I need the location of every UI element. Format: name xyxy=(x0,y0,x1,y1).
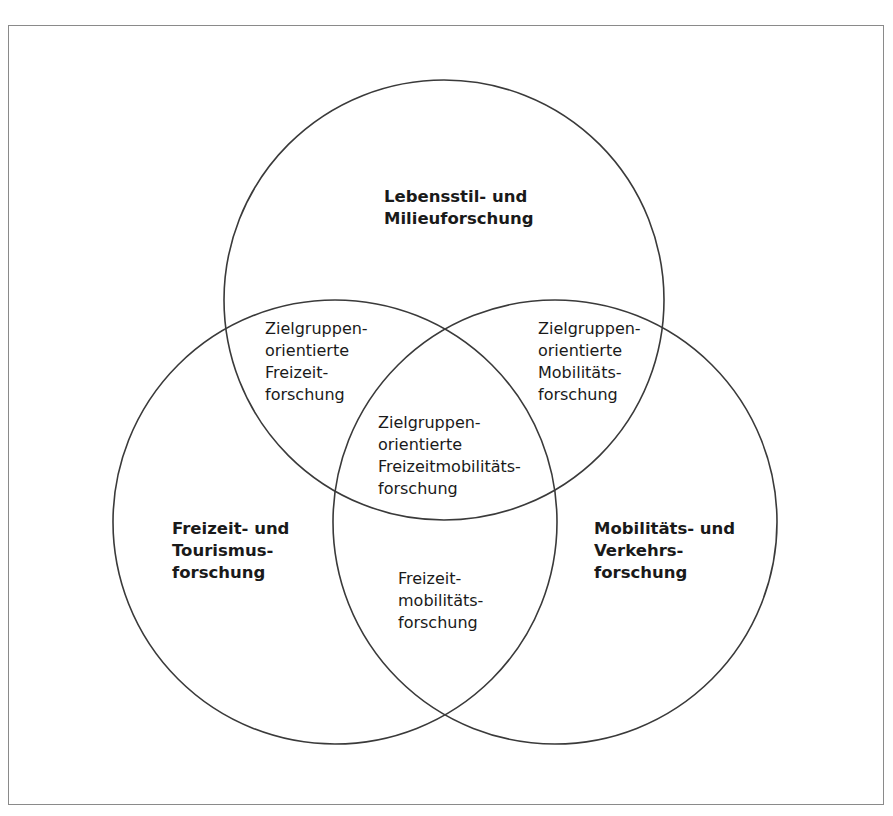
label-line: orientierte xyxy=(265,340,368,362)
label-line: forschung xyxy=(398,612,483,634)
venn-diagram xyxy=(0,0,893,816)
label-line: forschung xyxy=(265,384,368,406)
label-line: Zielgruppen- xyxy=(538,318,641,340)
label-line: orientierte xyxy=(538,340,641,362)
label-line: forschung xyxy=(538,384,641,406)
label-freizeit-tourismus: Freizeit- und Tourismus- forschung xyxy=(172,518,289,584)
label-line: Mobilitäts- und xyxy=(594,518,735,540)
label-zielgruppen-freizeitmobilitaet: Zielgruppen- orientierte Freizeitmobilit… xyxy=(378,412,521,500)
label-line: Freizeit- und xyxy=(172,518,289,540)
label-line: Freizeit- xyxy=(398,568,483,590)
label-line: Mobilitäts- xyxy=(538,362,641,384)
label-line: Verkehrs- xyxy=(594,540,735,562)
label-line: orientierte xyxy=(378,434,521,456)
label-line: Freizeit- xyxy=(265,362,368,384)
label-line: Freizeitmobilitäts- xyxy=(378,456,521,478)
label-mobilitaet-verkehr: Mobilitäts- und Verkehrs- forschung xyxy=(594,518,735,584)
label-lebensstil-milieu: Lebensstil- und Milieuforschung xyxy=(384,186,534,230)
label-line: Tourismus- xyxy=(172,540,289,562)
label-line: forschung xyxy=(594,562,735,584)
label-zielgruppen-freizeit: Zielgruppen- orientierte Freizeit- forsc… xyxy=(265,318,368,406)
label-line: forschung xyxy=(378,478,521,500)
label-freizeitmobilitaet: Freizeit- mobilitäts- forschung xyxy=(398,568,483,634)
label-line: Zielgruppen- xyxy=(378,412,521,434)
label-line: mobilitäts- xyxy=(398,590,483,612)
label-line: Lebensstil- und xyxy=(384,186,534,208)
label-zielgruppen-mobilitaet: Zielgruppen- orientierte Mobilitäts- for… xyxy=(538,318,641,406)
label-line: Zielgruppen- xyxy=(265,318,368,340)
label-line: forschung xyxy=(172,562,289,584)
label-line: Milieuforschung xyxy=(384,208,534,230)
